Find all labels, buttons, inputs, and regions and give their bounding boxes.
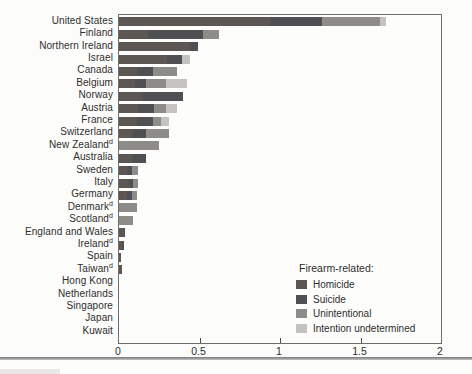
bar-segment-unintentional — [146, 129, 169, 138]
legend-swatch-homicide — [296, 280, 307, 289]
footnote-marker: d — [109, 237, 113, 244]
legend: Firearm-related: HomicideSuicideUnintent… — [296, 262, 415, 336]
bar-segment-unintentional — [154, 104, 165, 113]
bar-segment-suicide — [190, 42, 198, 51]
footnote-marker: d — [109, 199, 113, 206]
bar-segment-suicide — [133, 129, 146, 138]
x-axis-tick-label: 0.5 — [182, 345, 216, 357]
chart-figure: United StatesFinlandNorthern IrelandIsra… — [0, 0, 472, 374]
x-axis-tick-label: 1.5 — [343, 345, 377, 357]
country-label: Switzerland — [0, 126, 113, 138]
bar-segment-homicide — [119, 129, 133, 138]
bar-segment-suicide — [122, 241, 124, 250]
legend-swatch-suicide — [296, 295, 307, 304]
bar-segment-unintentional — [203, 30, 219, 39]
country-label: Netherlands — [0, 288, 113, 300]
bar-segment-suicide — [137, 117, 153, 126]
country-label: Northern Ireland — [0, 40, 113, 52]
legend-swatch-undetermined — [296, 324, 307, 333]
bar-segment-suicide — [148, 30, 203, 39]
country-label: Irelandd — [0, 238, 113, 250]
country-label: Hong Kong — [0, 275, 113, 287]
bar-segment-homicide — [119, 104, 138, 113]
bar-segment-suicide — [143, 92, 183, 101]
legend-item-homicide: Homicide — [296, 277, 415, 292]
country-label: United States — [0, 15, 113, 27]
bar-segment-homicide — [119, 42, 190, 51]
country-label: France — [0, 114, 113, 126]
bar-segment-homicide — [119, 154, 133, 163]
country-label: New Zealandd — [0, 139, 113, 151]
legend-item-label: Intention undetermined — [313, 323, 415, 334]
footnote-marker: d — [109, 261, 113, 268]
legend-item-label: Unintentional — [313, 308, 371, 319]
bar-segment-unintentional — [119, 141, 159, 150]
x-axis-tick-label: 2 — [423, 345, 457, 357]
country-label: Israel — [0, 52, 113, 64]
country-label: Singapore — [0, 300, 113, 312]
legend-title: Firearm-related: — [299, 262, 415, 274]
bar-segment-homicide — [119, 67, 137, 76]
bar-segment-suicide — [167, 55, 181, 64]
bar-segment-suicide — [124, 228, 126, 237]
x-axis-tick-mark — [361, 338, 362, 343]
bar-segment-homicide — [119, 166, 127, 175]
bar-segment-homicide — [119, 92, 143, 101]
country-label: Denmarkd — [0, 201, 113, 213]
bar-segment-undetermined — [161, 117, 169, 126]
footnote-marker: d — [109, 212, 113, 219]
country-label: Canada — [0, 64, 113, 76]
legend-item-undetermined: Intention undetermined — [296, 321, 415, 336]
country-label: Australia — [0, 151, 113, 163]
legend-item-label: Homicide — [313, 279, 355, 290]
legend-item-unintentional: Unintentional — [296, 307, 415, 322]
bar-segment-undetermined — [166, 79, 187, 88]
bar-segment-homicide — [119, 79, 135, 88]
bar-segment-homicide — [119, 253, 121, 262]
bar-segment-suicide — [133, 154, 146, 163]
country-label: Austria — [0, 102, 113, 114]
bar-segment-homicide — [119, 117, 137, 126]
footnote-marker: d — [109, 137, 113, 144]
x-axis-tick-mark — [200, 338, 201, 343]
bar-segment-unintentional — [119, 216, 133, 225]
bar-segment-undetermined — [166, 104, 177, 113]
x-axis-tick-label: 0 — [101, 345, 135, 357]
bar-segment-undetermined — [182, 55, 190, 64]
bar-segment-unintentional — [146, 79, 165, 88]
bar-segment-homicide — [119, 55, 167, 64]
x-axis-tick-label: 1 — [262, 345, 296, 357]
bar-segment-unintentional — [133, 179, 138, 188]
country-label: Spain — [0, 250, 113, 262]
country-label: Belgium — [0, 77, 113, 89]
bar-segment-homicide — [119, 179, 129, 188]
country-label: Japan — [0, 312, 113, 324]
bar-segment-suicide — [138, 104, 154, 113]
legend-item-suicide: Suicide — [296, 292, 415, 307]
country-label: Finland — [0, 27, 113, 39]
x-axis-tick-mark — [280, 338, 281, 343]
country-label: Taiwand — [0, 263, 113, 275]
bar-segment-homicide — [119, 17, 270, 26]
bar-segment-homicide — [119, 30, 148, 39]
legend-items: HomicideSuicideUnintentionalIntention un… — [296, 277, 415, 336]
cutoff-caption-fragment — [0, 369, 60, 374]
bar-segment-unintentional — [132, 166, 138, 175]
bar-segment-unintentional — [322, 17, 380, 26]
bar-segment-homicide — [119, 265, 122, 274]
country-label: Kuwait — [0, 325, 113, 337]
bar-segment-suicide — [270, 17, 322, 26]
bottom-divider-rule — [0, 357, 472, 360]
bar-segment-unintentional — [119, 203, 137, 212]
country-label: Italy — [0, 176, 113, 188]
bar-segment-unintentional — [132, 191, 137, 200]
country-label: Germany — [0, 188, 113, 200]
country-label: England and Wales — [0, 226, 113, 238]
bar-segment-unintentional — [153, 117, 161, 126]
bar-segment-suicide — [135, 79, 146, 88]
bar-segment-suicide — [137, 67, 153, 76]
country-label: Scotlandd — [0, 213, 113, 225]
country-label: Sweden — [0, 164, 113, 176]
bar-segment-homicide — [119, 191, 127, 200]
bar-segment-undetermined — [380, 17, 386, 26]
